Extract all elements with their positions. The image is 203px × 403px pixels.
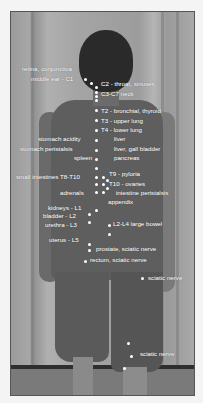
marker-dot-icon (95, 183, 98, 186)
marker-dot-icon (108, 224, 111, 227)
annotation-label: sciatic nerve (148, 274, 182, 281)
curtain-fold (176, 12, 179, 395)
annotation-label: intestine peristalsis (116, 189, 168, 196)
shorts-left-leg (55, 272, 109, 362)
marker-dot-icon (95, 119, 98, 122)
marker-dot-icon (127, 342, 130, 345)
annotation-label: sciatic nerve (140, 350, 174, 357)
marker-dot-icon (95, 167, 98, 170)
marker-dot-icon (95, 99, 98, 102)
annotation-label: spleen (74, 154, 92, 161)
annotation-label: liver (114, 135, 125, 142)
marker-dot-icon (88, 221, 91, 224)
annotation-label: C2 - throat, sinuses (101, 80, 155, 87)
annotation-label: T4 - lower lung (101, 126, 142, 133)
annotation-label: rectum, sciatic nerve (90, 256, 147, 263)
marker-dot-icon (95, 209, 98, 212)
marker-dot-icon (88, 243, 91, 246)
annotation-label: L2-L4 large bowel (113, 220, 162, 227)
annotation-label: adrenals (60, 189, 84, 196)
marker-dot-icon (102, 191, 105, 194)
marker-dot-icon (102, 176, 105, 179)
marker-dot-icon (88, 213, 91, 216)
annotation-label: small intestines T8-T10 (16, 173, 80, 180)
annotation-label: C3-C7 neck (101, 90, 134, 97)
annotation-label: middle ear - C1 (31, 75, 73, 82)
marker-dot-icon (108, 233, 111, 236)
annotation-label: uterus - L5 (49, 236, 79, 243)
marker-dot-icon (95, 129, 98, 132)
annotation-label: bladder - L2 (43, 212, 76, 219)
marker-dot-icon (95, 91, 98, 94)
annotation-label: T9 - pyloria (109, 170, 140, 177)
annotation-label: liver, gall bladder (114, 145, 160, 152)
annotation-label: urethra - L3 (45, 221, 77, 228)
right-calf (123, 367, 147, 396)
marker-dot-icon (88, 249, 91, 252)
marker-dot-icon (95, 139, 98, 142)
marker-dot-icon (95, 95, 98, 98)
annotation-label: pancreas (114, 154, 139, 161)
annotation-label: T3 - upper lung (101, 117, 143, 124)
annotation-label: T2 - bronchial, thyroid (101, 107, 161, 114)
marker-dot-icon (95, 176, 98, 179)
marker-dot-icon (84, 78, 87, 81)
annotation-label: prostate, sciatic nerve (96, 245, 156, 252)
marker-dot-icon (130, 355, 133, 358)
annotation-label: T10 - ovaries (109, 180, 145, 187)
marker-dot-icon (95, 191, 98, 194)
annotation-label: appendix (108, 198, 133, 205)
marker-dot-icon (141, 277, 144, 280)
left-calf (73, 357, 93, 396)
marker-dot-icon (95, 86, 98, 89)
marker-dot-icon (84, 260, 87, 263)
shorts-right-leg (111, 272, 163, 372)
annotation-label: kidneys - L1 (48, 204, 81, 211)
annotation-label: retina, conjunctiva (22, 65, 72, 72)
floor (11, 369, 194, 395)
marker-dot-icon (95, 158, 98, 161)
marker-dot-icon (123, 367, 126, 370)
marker-dot-icon (90, 82, 93, 85)
marker-dot-icon (95, 149, 98, 152)
marker-dot-icon (102, 183, 105, 186)
marker-dot-icon (95, 109, 98, 112)
annotation-label: stomach peristalsis (20, 145, 73, 152)
annotation-label: stomach acidity (38, 135, 81, 142)
